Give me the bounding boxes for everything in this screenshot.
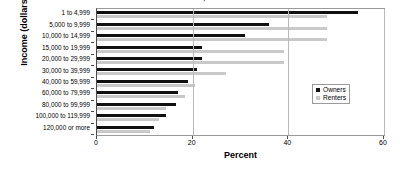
bar-group [97, 9, 384, 20]
bar-group [97, 55, 384, 66]
bar-owners [97, 57, 202, 60]
y-tick-label: 15,000 to 19,999 [42, 45, 90, 51]
bar-group [97, 66, 384, 77]
bar-owners [97, 46, 202, 49]
y-tick-mark [91, 54, 94, 55]
y-tick-mark [91, 19, 94, 20]
bar-owners [97, 34, 245, 37]
y-tick-mark [91, 31, 94, 32]
bar-owners [97, 103, 176, 106]
bar-renters [97, 61, 284, 64]
y-tick-label: 5,000 to 9,999 [49, 22, 90, 28]
bar-renters [97, 84, 195, 87]
y-tick-label: 20,000 to 29,999 [42, 56, 90, 62]
bar-group [97, 112, 384, 123]
y-axis-tick-labels: 1 to 4,9995,000 to 9,99910,000 to 14,999… [0, 8, 94, 136]
bar-renters [97, 72, 226, 75]
legend-label-renters: Renters [323, 95, 346, 102]
bar-renters [97, 15, 327, 18]
y-tick-label: 80,000 to 99,999 [42, 102, 90, 108]
chart-title: Income, 2013 [0, 0, 400, 2]
bar-rows [97, 9, 384, 135]
bar-owners [97, 68, 197, 71]
bar-renters [97, 50, 284, 53]
bar-owners [97, 11, 358, 14]
bar-owners [97, 23, 269, 26]
y-tick-label: 40,000 to 59,999 [42, 79, 90, 85]
y-tick-mark [91, 111, 94, 112]
x-axis-title: Percent [96, 150, 385, 160]
gridline-60 [384, 9, 385, 135]
legend-swatch-owners [316, 88, 320, 92]
x-tick-label: 40 [283, 139, 291, 146]
legend-label-owners: Owners [323, 87, 346, 94]
y-tick-mark [91, 42, 94, 43]
y-tick-label: 1 to 4,999 [62, 10, 90, 16]
x-axis-ticks: 0204060 [96, 136, 385, 148]
bar-owners [97, 126, 154, 129]
bar-renters [97, 130, 150, 133]
chart-container: Income, 2013 Income (dollars) 1 to 4,999… [0, 0, 400, 177]
y-tick-mark [91, 77, 94, 78]
legend-swatch-renters [316, 96, 320, 100]
y-tick-mark [91, 123, 94, 124]
y-tick-mark [91, 134, 94, 135]
bar-renters [97, 95, 185, 98]
y-tick-label: 120,000 or more [43, 125, 90, 131]
x-tick-label: 20 [188, 139, 196, 146]
bar-owners [97, 80, 188, 83]
y-tick-label: 10,000 to 14,999 [42, 33, 90, 39]
bar-renters [97, 118, 159, 121]
y-tick-mark [91, 100, 94, 101]
x-tick-label: 60 [379, 139, 387, 146]
bar-owners [97, 114, 166, 117]
gridline-20 [193, 9, 194, 135]
bar-renters [97, 38, 327, 41]
bar-group [97, 43, 384, 54]
plot-area [96, 8, 385, 136]
bar-renters [97, 107, 166, 110]
y-tick-label: 100,000 to 119,999 [35, 113, 90, 119]
gridline-40 [288, 9, 289, 135]
bar-owners [97, 91, 178, 94]
bar-renters [97, 27, 327, 30]
y-tick-label: 60,000 to 79,999 [42, 90, 90, 96]
legend-item-renters: Renters [316, 95, 346, 102]
bar-group [97, 124, 384, 135]
y-tick-label: 30,000 to 39,999 [42, 68, 90, 74]
x-tick-label: 0 [94, 139, 98, 146]
bar-group [97, 32, 384, 43]
chart-legend: Owners Renters [312, 84, 350, 104]
legend-item-owners: Owners [316, 87, 346, 94]
bar-group [97, 20, 384, 31]
y-tick-mark [91, 65, 94, 66]
y-tick-mark [91, 88, 94, 89]
